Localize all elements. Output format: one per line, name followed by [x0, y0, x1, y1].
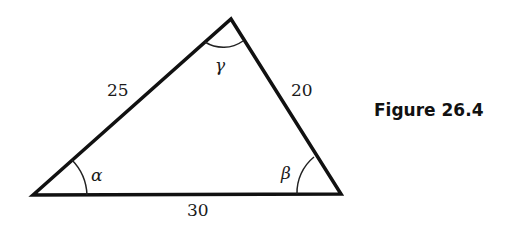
- angle-beta-arc: [297, 157, 314, 194]
- angle-label-beta: β: [281, 165, 291, 182]
- figure-caption: Figure 26.4: [374, 100, 484, 120]
- figure-canvas: 25 20 30 α β γ Figure 26.4: [0, 0, 529, 226]
- angle-alpha-arc: [72, 160, 87, 195]
- side-label-left: 25: [107, 82, 129, 99]
- angle-label-alpha: α: [91, 167, 102, 184]
- side-label-right: 20: [291, 82, 313, 99]
- angle-label-gamma: γ: [215, 57, 225, 74]
- angle-gamma-arc: [205, 41, 243, 47]
- side-label-bottom: 30: [187, 202, 209, 219]
